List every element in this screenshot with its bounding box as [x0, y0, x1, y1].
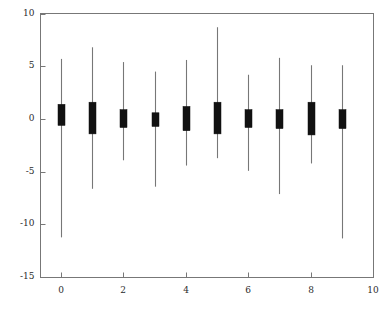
plot-border	[41, 14, 374, 278]
y-tick-label-5: 5	[29, 61, 35, 70]
candle-body	[245, 110, 252, 128]
plot-frame	[41, 14, 374, 278]
candle-body	[276, 110, 283, 129]
candle-7	[276, 58, 283, 194]
candle-5	[214, 27, 221, 158]
candle-body	[183, 106, 190, 130]
candle-body	[89, 102, 96, 134]
y-tick-label--5: -5	[26, 167, 35, 176]
candle-body	[308, 102, 315, 135]
y-tick-label--10: -10	[20, 219, 35, 228]
candle-4	[183, 60, 190, 166]
candle-0	[58, 59, 65, 237]
x-tick-label-2: 2	[103, 286, 143, 295]
candle-body	[339, 110, 346, 129]
axis-ticks	[41, 15, 374, 278]
candle-9	[339, 65, 346, 238]
y-tick-label--15: -15	[20, 272, 35, 281]
y-tick-label-10: 10	[23, 9, 34, 18]
x-tick-label-10: 10	[353, 286, 391, 295]
y-tick-label-0: 0	[29, 114, 35, 123]
candle-8	[308, 65, 315, 163]
candle-body	[152, 113, 159, 127]
candle-3	[152, 72, 159, 187]
candle-2	[120, 62, 127, 160]
candlestick-plot	[0, 0, 391, 312]
candle-6	[245, 75, 252, 171]
candle-series	[58, 27, 346, 238]
x-tick-label-0: 0	[41, 286, 81, 295]
x-tick-label-6: 6	[228, 286, 268, 295]
candle-1	[89, 47, 96, 189]
candle-body	[58, 104, 65, 125]
x-tick-label-4: 4	[166, 286, 206, 295]
candle-body	[120, 110, 127, 128]
chart-figure: 1050-5-10-15 0246810	[0, 0, 391, 312]
x-tick-label-8: 8	[291, 286, 331, 295]
candle-body	[214, 102, 221, 134]
